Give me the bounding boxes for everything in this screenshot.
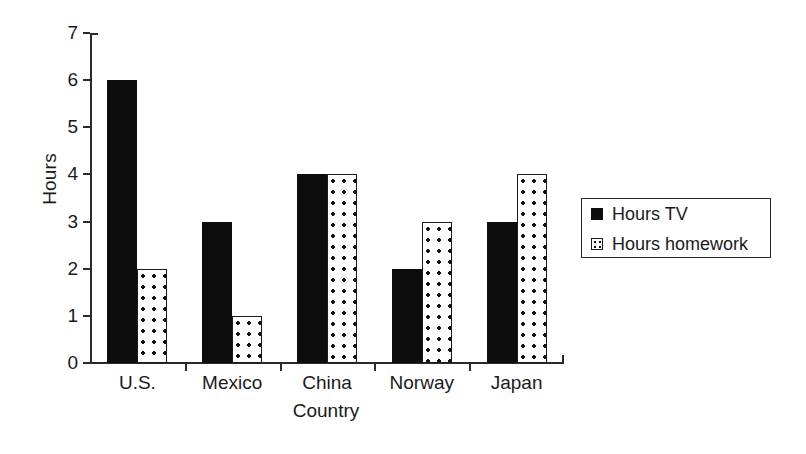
x-category-label-china: China xyxy=(280,372,375,394)
y-tick-label-7: 7 xyxy=(52,23,78,42)
solid-black-square-icon xyxy=(591,208,603,220)
legend-label-hours-tv: Hours TV xyxy=(612,204,688,224)
chart-legend: Hours TV Hours homework xyxy=(581,198,771,258)
y-tick-6 xyxy=(83,79,90,81)
bar-group-u-s xyxy=(107,33,167,363)
bar-hours-homework xyxy=(422,222,452,363)
legend-label-hours-homework: Hours homework xyxy=(612,234,748,254)
dotted-white-square-icon xyxy=(591,238,603,250)
x-axis-title: Country xyxy=(236,400,416,422)
bar-chart: 01234567 Hours Country U.S.MexicoChinaNo… xyxy=(0,0,806,454)
bar-group-japan xyxy=(487,33,547,363)
x-category-label-norway: Norway xyxy=(374,372,469,394)
x-category-label-japan: Japan xyxy=(469,372,564,394)
bar-hours-tv xyxy=(487,222,517,363)
bar-hours-homework xyxy=(517,174,547,363)
x-category-label-mexico: Mexico xyxy=(185,372,280,394)
bar-group-mexico xyxy=(202,33,262,363)
y-tick-4 xyxy=(83,173,90,175)
x-tick-4 xyxy=(469,363,471,371)
y-tick-5 xyxy=(83,126,90,128)
y-tick-label-0: 0 xyxy=(52,353,78,372)
y-tick-7 xyxy=(83,32,90,34)
bar-hours-homework xyxy=(327,174,357,363)
bar-hours-tv xyxy=(107,80,137,363)
y-axis-title: Hours xyxy=(39,119,61,239)
y-tick-0 xyxy=(83,362,90,364)
bar-hours-tv xyxy=(392,269,422,363)
x-tick-3 xyxy=(374,363,376,371)
bar-hours-homework xyxy=(137,269,167,363)
x-category-label-u-s: U.S. xyxy=(90,372,185,394)
y-tick-2 xyxy=(83,268,90,270)
bar-group-china xyxy=(297,33,357,363)
y-tick-3 xyxy=(83,221,90,223)
y-tick-label-2: 2 xyxy=(52,259,78,278)
bar-hours-tv xyxy=(297,174,327,363)
bar-hours-homework xyxy=(232,316,262,363)
plot-area xyxy=(90,33,564,363)
y-tick-label-6: 6 xyxy=(52,70,78,89)
legend-row-hours-tv: Hours TV xyxy=(582,199,770,229)
y-tick-label-1: 1 xyxy=(52,306,78,325)
y-tick-1 xyxy=(83,315,90,317)
bar-group-norway xyxy=(392,33,452,363)
legend-row-hours-homework: Hours homework xyxy=(582,229,770,259)
x-tick-1 xyxy=(185,363,187,371)
x-tick-2 xyxy=(280,363,282,371)
bar-hours-tv xyxy=(202,222,232,363)
